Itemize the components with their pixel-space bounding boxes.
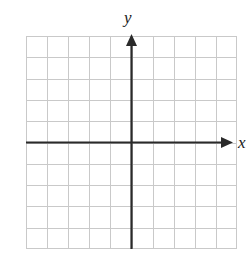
grid-area	[26, 36, 237, 249]
x-axis-label: x	[238, 134, 246, 151]
y-axis-label: y	[124, 9, 132, 26]
coordinate-plane-figure: y x	[0, 0, 252, 255]
grid-lines	[26, 36, 237, 249]
